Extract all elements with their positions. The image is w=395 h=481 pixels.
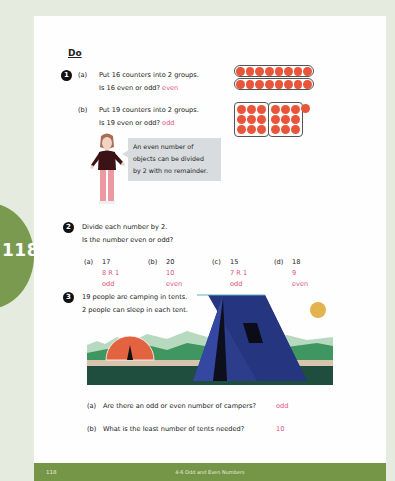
q1a-line2: Is 16 even or odd? even (99, 82, 178, 95)
q2b-parity: even (166, 278, 182, 291)
remainder-counter (301, 104, 310, 113)
q3b-question: What is the least number of tents needed… (103, 423, 244, 436)
q2d-parity: even (292, 278, 308, 291)
q1a-answer: even (162, 84, 178, 92)
girl-character-illustration (88, 132, 126, 208)
q1b-answer: odd (162, 119, 174, 127)
q2c-parity: odd (230, 278, 242, 291)
q1a-question: Is 16 even or odd? (99, 84, 160, 92)
q3b-answer: 10 (276, 423, 284, 436)
q3a-question: Are there an odd or even number of campe… (103, 400, 256, 413)
section-heading: Do (68, 48, 82, 58)
speech-bubble: An even number of objects can be divided… (128, 138, 221, 181)
question-2-badge: 2 (63, 222, 74, 233)
q1b-question: Is 19 even or odd? (99, 119, 160, 127)
footer-chapter-title: 4-6 Odd and Even Numbers (34, 469, 386, 475)
counter-group-1 (234, 102, 269, 137)
q2b-label: (b) (148, 256, 157, 269)
q1b-line1: Put 19 counters into 2 groups. (99, 104, 199, 117)
sun-icon (310, 302, 326, 318)
camping-scene-illustration (87, 293, 333, 385)
counter-group-row-1 (234, 65, 314, 77)
counter-group-2 (268, 102, 303, 137)
bubble-line-2: objects can be divided (133, 153, 216, 165)
bubble-line-1: An even number of (133, 141, 216, 153)
q3b-label: (b) (87, 423, 96, 436)
q2a-parity: odd (102, 278, 114, 291)
q1b-line2: Is 19 even or odd? odd (99, 117, 175, 130)
q2d-label: (d) (274, 256, 283, 269)
q2c-label: (c) (212, 256, 221, 269)
page-footer: 118 4-6 Odd and Even Numbers (34, 463, 386, 481)
side-tab-page-number: 118 (2, 240, 39, 260)
q3a-label: (a) (87, 400, 96, 413)
question-3-badge: 3 (63, 292, 74, 303)
counter-group-row-2 (234, 78, 314, 90)
q3a-answer: odd (276, 400, 288, 413)
question-1-badge: 1 (61, 70, 72, 81)
q1a-line1: Put 16 counters into 2 groups. (99, 69, 199, 82)
q1b-label: (b) (78, 104, 87, 117)
q2a-label: (a) (84, 256, 93, 269)
q1a-label: (a) (78, 69, 87, 82)
q2-line1: Divide each number by 2. (82, 221, 167, 234)
bubble-line-3: by 2 with no remainder. (133, 165, 216, 177)
q2-line2: Is the number even or odd? (82, 234, 173, 247)
